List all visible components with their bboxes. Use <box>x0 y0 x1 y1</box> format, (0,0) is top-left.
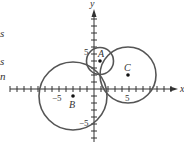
point-label-b: B <box>69 99 75 110</box>
y-axis-label: y <box>89 0 95 9</box>
center-point-c <box>126 73 130 77</box>
point-label-c: C <box>124 62 131 73</box>
x-axis-label: x <box>179 83 184 94</box>
y-axis-arrow-icon <box>92 9 97 17</box>
x-tick-label-neg5: −5 <box>52 93 62 103</box>
x-tick-label-5: 5 <box>125 93 130 103</box>
axis-ticks <box>10 19 171 138</box>
coordinate-plane-diagram: x y 5 −5 5 −5 A B C <box>0 0 184 149</box>
center-point-a <box>98 59 102 63</box>
x-axis-arrow-icon <box>170 87 178 92</box>
center-point-b <box>71 94 75 98</box>
point-label-a: A <box>97 48 105 59</box>
